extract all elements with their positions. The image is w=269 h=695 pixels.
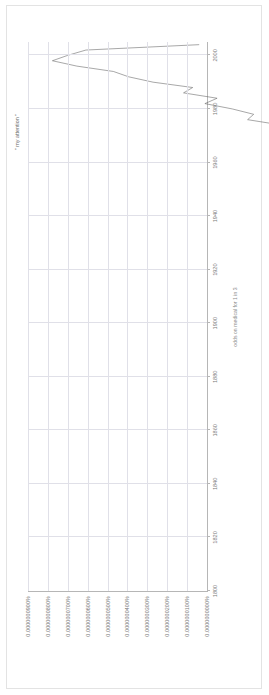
plot-area: 0.0000000000%0.0000000100%0.0000000200%0… — [28, 42, 208, 592]
x-axis-tick-label: 1920 — [212, 263, 218, 275]
x-axis-tick — [207, 536, 210, 537]
x-axis-title: odds on medical for 1 in 3 — [232, 42, 238, 592]
y-axis-tick-label: 0.0000000900% — [25, 596, 31, 637]
y-axis-tick-label: 0.0000000200% — [164, 596, 170, 637]
y-axis-tick-label: 0.0000000400% — [124, 596, 130, 637]
x-axis-tick — [207, 375, 210, 376]
y-axis-tick-label: 0.0000000500% — [104, 596, 110, 637]
y-axis-tick-label: 0.0000000700% — [64, 596, 70, 637]
y-axis-tick-label: 0.0000000100% — [184, 596, 190, 637]
gridline-horizontal — [67, 42, 68, 591]
x-axis-tick — [207, 161, 210, 162]
gridline-vertical — [28, 375, 207, 376]
x-axis-tick — [207, 590, 210, 591]
series-annotation-label: " my attention " — [14, 113, 20, 149]
gridline-vertical — [28, 429, 207, 430]
y-axis-tick-label: 0.0000000000% — [204, 596, 210, 637]
rotated-chart-wrapper: 0.0000000000%0.0000000100%0.0000000200%0… — [10, 12, 260, 684]
gridline-horizontal — [107, 42, 108, 591]
x-axis-tick-label: 1860 — [212, 424, 218, 436]
x-axis-tick-label: 1940 — [212, 209, 218, 221]
x-axis-tick-label: 1840 — [212, 477, 218, 489]
x-axis-tick-label: 1900 — [212, 316, 218, 328]
gridline-horizontal — [47, 42, 48, 591]
x-axis-tick-label: 1820 — [212, 531, 218, 543]
x-axis-tick — [207, 429, 210, 430]
y-axis-tick-label: 0.0000000800% — [44, 596, 50, 637]
gridline-vertical — [28, 482, 207, 483]
x-axis-tick-label: 2000 — [212, 49, 218, 61]
chart-area: 0.0000000000%0.0000000100%0.0000000200%0… — [10, 12, 260, 684]
x-axis-tick — [207, 107, 210, 108]
x-axis-tick-label: 1880 — [212, 370, 218, 382]
y-axis-tick-label: 0.0000000600% — [84, 596, 90, 637]
gridline-vertical — [28, 536, 207, 537]
gridline-vertical — [28, 215, 207, 216]
x-axis-tick — [207, 54, 210, 55]
x-axis-tick-label: 1960 — [212, 156, 218, 168]
x-axis-tick-label: 1980 — [212, 102, 218, 114]
x-axis-tick — [207, 482, 210, 483]
y-axis-tick-label: 0.0000000300% — [144, 596, 150, 637]
gridline-vertical — [28, 54, 207, 55]
gridline-horizontal — [167, 42, 168, 591]
gridline-horizontal — [147, 42, 148, 591]
x-axis-tick — [207, 322, 210, 323]
gridline-horizontal — [187, 42, 188, 591]
gridline-horizontal — [127, 42, 128, 591]
gridline-vertical — [28, 107, 207, 108]
gridline-vertical — [28, 268, 207, 269]
x-axis-tick — [207, 268, 210, 269]
gridline-vertical — [28, 161, 207, 162]
gridline-horizontal — [87, 42, 88, 591]
gridline-horizontal — [28, 42, 29, 591]
x-axis-tick-label: 1800 — [212, 584, 218, 596]
x-axis-tick — [207, 215, 210, 216]
gridline-vertical — [28, 322, 207, 323]
chart-page: 0.0000000000%0.0000000100%0.0000000200%0… — [0, 0, 269, 695]
